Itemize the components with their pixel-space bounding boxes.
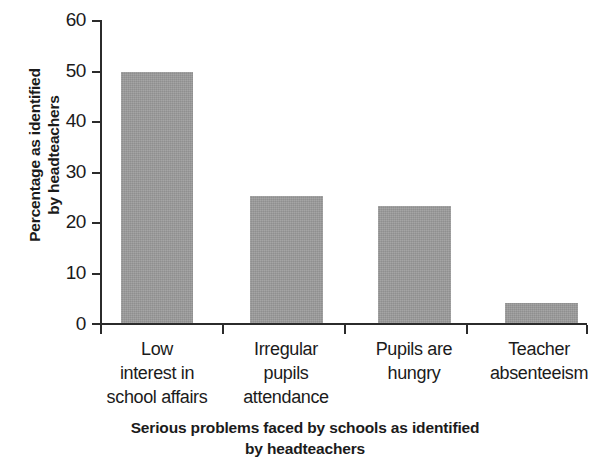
x-category-label-2: Pupils are hungry (354, 338, 474, 386)
x-category-label-3-line-1: Teacher (478, 338, 599, 362)
x-tick-mark-0 (100, 325, 102, 334)
x-axis-title-line-2: by headteachers (40, 439, 570, 460)
x-tick-mark-4 (586, 325, 588, 334)
x-category-label-0: Low interest in school affairs (97, 338, 217, 409)
y-tick-label-60: 60 (40, 10, 86, 29)
y-tick-label-30: 30 (40, 162, 86, 181)
x-category-label-0-line-2: interest in (97, 362, 217, 386)
y-axis-title: Percentage as identified by headteachers (25, 5, 65, 305)
y-tick-mark-10 (92, 273, 101, 275)
x-category-label-1: Irregular pupils attendance (226, 338, 346, 409)
y-tick-mark-20 (92, 222, 101, 224)
x-category-label-1-line-3: attendance (226, 386, 346, 410)
x-axis-title: Serious problems faced by schools as ide… (40, 418, 570, 460)
x-category-label-1-line-1: Irregular (226, 338, 346, 362)
x-category-label-1-line-2: pupils (226, 362, 346, 386)
y-tick-mark-30 (92, 172, 101, 174)
y-tick-mark-50 (92, 71, 101, 73)
bar-teacher-absenteeism (505, 303, 578, 323)
x-category-label-3-line-2: absenteeism (478, 362, 599, 386)
x-tick-mark-2 (344, 325, 346, 334)
y-tick-label-50: 50 (40, 61, 86, 80)
x-category-label-0-line-1: Low (97, 338, 217, 362)
x-category-label-2-line-1: Pupils are (354, 338, 474, 362)
y-tick-label-0: 0 (40, 314, 86, 333)
x-category-label-0-line-3: school affairs (97, 386, 217, 410)
y-tick-label-10: 10 (40, 263, 86, 282)
y-tick-mark-60 (92, 20, 101, 22)
bar-pupils-are-hungry (378, 206, 451, 323)
y-tick-label-20: 20 (40, 212, 86, 231)
x-tick-mark-1 (222, 325, 224, 334)
x-tick-mark-3 (466, 325, 468, 334)
y-tick-label-40: 40 (40, 111, 86, 130)
bar-low-interest-in-school-affairs (121, 72, 193, 323)
bar-irregular-pupils-attendance (250, 196, 323, 323)
y-tick-mark-40 (92, 121, 101, 123)
x-category-label-3: Teacher absenteeism (478, 338, 599, 386)
bar-chart-figure: Percentage as identified by headteachers… (0, 0, 599, 467)
x-axis-title-line-1: Serious problems faced by schools as ide… (40, 418, 570, 439)
x-category-label-2-line-2: hungry (354, 362, 474, 386)
